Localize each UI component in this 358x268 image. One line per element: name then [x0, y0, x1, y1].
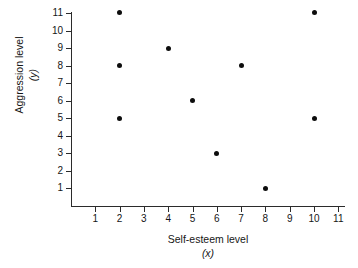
y-axis-label-text: Aggression level	[13, 36, 25, 113]
data-point	[263, 186, 268, 191]
y-tick-mark	[66, 118, 71, 119]
data-point	[312, 116, 317, 121]
x-tick-label: 1	[85, 214, 105, 224]
data-point	[239, 63, 244, 68]
x-tick-label: 10	[304, 214, 324, 224]
y-axis-line	[71, 12, 72, 207]
x-tick-mark	[265, 207, 266, 212]
y-tick-mark	[66, 13, 71, 14]
y-axis-label-wrap: Aggression level (y)	[12, 0, 42, 165]
data-point	[117, 116, 122, 121]
x-tick-mark	[290, 207, 291, 212]
data-point	[190, 98, 195, 103]
x-tick-label: 8	[255, 214, 275, 224]
x-axis-line	[71, 206, 345, 207]
x-tick-mark	[95, 207, 96, 212]
y-tick-mark	[66, 83, 71, 84]
y-axis-label: Aggression level (y)	[12, 0, 40, 165]
data-point	[117, 10, 122, 15]
x-tick-label: 5	[183, 214, 203, 224]
y-tick-mark	[66, 48, 71, 49]
x-tick-label: 7	[231, 214, 251, 224]
x-tick-mark	[241, 207, 242, 212]
x-tick-label: 3	[134, 214, 154, 224]
y-tick-label: 1	[37, 183, 63, 193]
x-tick-label: 2	[110, 214, 130, 224]
x-tick-label: 6	[207, 214, 227, 224]
data-point	[312, 10, 317, 15]
y-tick-mark	[66, 188, 71, 189]
y-tick-mark	[66, 31, 71, 32]
y-tick-mark	[66, 171, 71, 172]
x-axis-label-text: Self-esteem level	[168, 233, 249, 245]
x-tick-mark	[193, 207, 194, 212]
y-tick-mark	[66, 66, 71, 67]
x-tick-mark	[168, 207, 169, 212]
x-axis-variable: (x)	[202, 247, 214, 259]
x-axis-label: Self-esteem level (x)	[71, 232, 345, 260]
data-point	[166, 46, 171, 51]
y-tick-mark	[66, 101, 71, 102]
data-point	[117, 63, 122, 68]
y-tick-mark	[66, 136, 71, 137]
y-tick-label: 2	[37, 166, 63, 176]
x-tick-mark	[338, 207, 339, 212]
x-tick-label: 11	[328, 214, 348, 224]
x-tick-mark	[120, 207, 121, 212]
x-tick-label: 4	[158, 214, 178, 224]
x-tick-mark	[314, 207, 315, 212]
y-tick-mark	[66, 153, 71, 154]
x-tick-mark	[217, 207, 218, 212]
x-tick-label: 9	[280, 214, 300, 224]
data-point	[214, 151, 219, 156]
scatter-plot-figure: 1234567891011 1234567891011 Self-esteem …	[0, 0, 358, 268]
x-tick-mark	[144, 207, 145, 212]
y-axis-variable: (y)	[27, 69, 39, 81]
